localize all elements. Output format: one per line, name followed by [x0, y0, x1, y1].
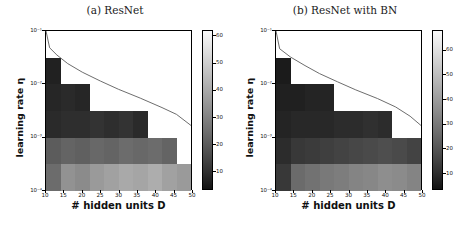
colorbar-tick-label: 30: [446, 120, 453, 126]
heatmap-cell: [177, 58, 192, 85]
heatmap-cell: [90, 58, 105, 85]
colorbar-tick-mark: [443, 124, 446, 125]
heatmap-cell: [104, 58, 119, 85]
x-tick-mark: [45, 190, 46, 193]
heatmap-cell: [75, 138, 90, 165]
heatmap-cell: [276, 84, 291, 111]
heatmap-cell: [133, 84, 148, 111]
x-tick-mark: [367, 190, 368, 193]
heatmap-cell: [320, 58, 335, 85]
heatmap-cell: [61, 111, 76, 138]
heatmap-cell: [305, 58, 320, 85]
heatmap-cell: [46, 58, 61, 85]
colorbar-tick-label: 10: [446, 170, 453, 176]
heatmap-cell: [90, 138, 105, 165]
heatmap-cell: [378, 84, 393, 111]
heatmap-cell: [46, 31, 61, 58]
heatmap-cell: [90, 111, 105, 138]
heatmap-cell: [119, 58, 134, 85]
heatmap-cell: [349, 164, 364, 191]
heatmap-cell: [104, 84, 119, 111]
colorbar-tick-mark: [213, 144, 216, 145]
x-tick-mark: [82, 190, 83, 193]
heatmap-cell: [363, 58, 378, 85]
colorbar-tick-mark: [213, 90, 216, 91]
y-tick-label: 10⁻¹: [246, 27, 272, 33]
heatmap-cell: [407, 164, 422, 191]
y-tick-mark: [42, 83, 45, 84]
heatmap-cell: [75, 111, 90, 138]
heatmap-cell: [291, 84, 306, 111]
heatmap-cell: [407, 138, 422, 165]
heatmap-cell: [305, 164, 320, 191]
heatmap-cell: [46, 84, 61, 111]
colorbar-tick-label: 20: [446, 145, 453, 151]
heatmap-cell: [75, 164, 90, 191]
heatmap-cell: [119, 84, 134, 111]
heatmap-cell: [363, 31, 378, 58]
heatmap-cell: [320, 138, 335, 165]
colorbar-tick-mark: [213, 171, 216, 172]
heatmap-cell: [291, 138, 306, 165]
y-tick-label: 10⁻³: [246, 133, 272, 139]
heatmap-cell: [407, 31, 422, 58]
heatmap-cell: [133, 164, 148, 191]
colorbar-tick-mark: [443, 173, 446, 174]
heatmap-cell: [61, 58, 76, 85]
heatmap-cell: [291, 31, 306, 58]
heatmap-cell: [162, 111, 177, 138]
heatmap-cell: [349, 138, 364, 165]
heatmap-cell: [75, 58, 90, 85]
heatmap-cell: [148, 84, 163, 111]
heatmap-cell: [46, 111, 61, 138]
heatmap-cell: [349, 84, 364, 111]
heatmap-cell: [392, 138, 407, 165]
heatmap-cell: [61, 164, 76, 191]
panel-a-colorbar-gradient: [203, 31, 212, 189]
x-tick-mark: [404, 190, 405, 193]
heatmap-cell: [90, 84, 105, 111]
heatmap-cell: [334, 138, 349, 165]
colorbar-tick-label: 50: [446, 71, 453, 77]
heatmap-cell: [177, 111, 192, 138]
heatmap-cell: [148, 164, 163, 191]
heatmap-cell: [104, 31, 119, 58]
heatmap-cell: [133, 138, 148, 165]
panel-b-xlabel: # hidden units D: [275, 200, 422, 211]
heatmap-cell: [363, 84, 378, 111]
y-tick-label: 10⁻²: [16, 80, 42, 86]
panel-b-colorbar-gradient: [433, 31, 442, 189]
heatmap-cell: [305, 84, 320, 111]
x-tick-mark: [137, 190, 138, 193]
heatmap-cell: [119, 111, 134, 138]
heatmap-cell: [305, 31, 320, 58]
heatmap-cell: [133, 111, 148, 138]
heatmap-cell: [61, 31, 76, 58]
heatmap-cell: [162, 164, 177, 191]
x-tick-mark: [385, 190, 386, 193]
heatmap-cell: [148, 31, 163, 58]
heatmap-cell: [392, 31, 407, 58]
heatmap-cell: [61, 84, 76, 111]
colorbar-tick-mark: [213, 35, 216, 36]
heatmap-cell: [148, 138, 163, 165]
heatmap-cell: [392, 84, 407, 111]
panel-a-heatmap: [46, 31, 191, 189]
panel-a-ylabel: learning rate η: [14, 62, 25, 158]
y-tick-mark: [272, 83, 275, 84]
y-tick-label: 10⁻³: [16, 133, 42, 139]
heatmap-cell: [177, 138, 192, 165]
y-tick-mark: [272, 30, 275, 31]
x-tick-mark: [119, 190, 120, 193]
colorbar-tick-mark: [443, 74, 446, 75]
heatmap-cell: [320, 31, 335, 58]
heatmap-cell: [305, 138, 320, 165]
colorbar-tick-label: 60: [216, 32, 223, 38]
heatmap-cell: [90, 164, 105, 191]
colorbar-tick-mark: [443, 50, 446, 51]
colorbar-tick-label: 10: [216, 168, 223, 174]
heatmap-cell: [291, 58, 306, 85]
x-tick-mark: [100, 190, 101, 193]
heatmap-cell: [75, 31, 90, 58]
x-tick-mark: [349, 190, 350, 193]
